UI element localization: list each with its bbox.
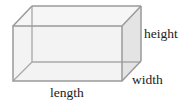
height-label: height [144,26,178,41]
rectangular-prism-diagram: height width length [0,0,190,103]
length-label: length [50,85,84,100]
front-face [13,26,122,81]
width-label: width [132,72,163,87]
